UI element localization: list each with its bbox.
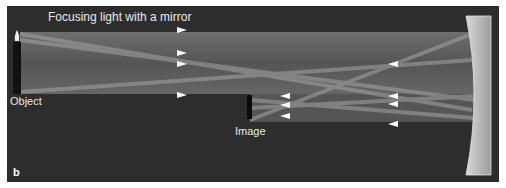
panel-letter: b [13, 166, 20, 178]
candle-icon [13, 42, 21, 94]
flame-icon [15, 30, 20, 41]
image-label: Image [235, 125, 266, 137]
object-label: Object [10, 95, 42, 107]
image-candle [247, 95, 252, 119]
diagram-title: Focusing light with a mirror [48, 10, 191, 24]
optics-diagram [0, 0, 506, 188]
